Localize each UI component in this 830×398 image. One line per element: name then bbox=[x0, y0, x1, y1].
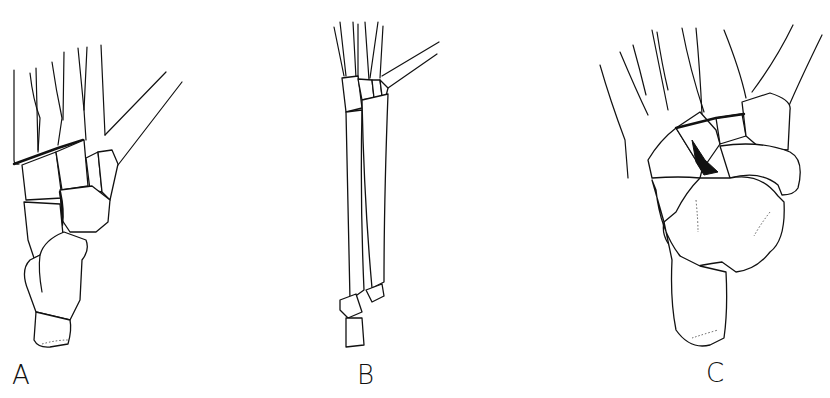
panel-label-c: C bbox=[706, 358, 724, 388]
anatomical-figure bbox=[0, 0, 830, 398]
panel-b-drawing bbox=[334, 22, 439, 347]
panel-label-a: A bbox=[12, 360, 30, 390]
panel-a-drawing bbox=[14, 45, 182, 347]
panel-c-drawing bbox=[600, 25, 822, 346]
panel-label-b: B bbox=[357, 360, 374, 390]
